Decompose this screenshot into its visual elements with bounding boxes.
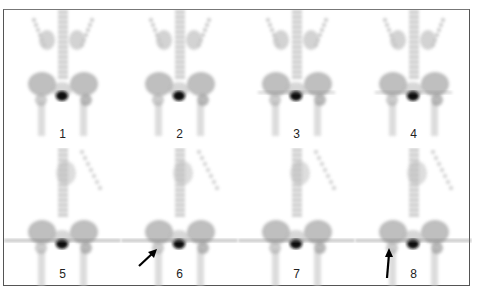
bone-scan-image (121, 148, 238, 286)
scan-panel-3: 3 (238, 10, 355, 148)
bone-scan-image (4, 148, 121, 286)
arrow-indicator (139, 249, 157, 266)
panel-number-label: 6 (121, 267, 238, 281)
bone-scan-image (238, 148, 355, 286)
panel-number-label: 2 (121, 127, 238, 141)
panel-number-label: 7 (238, 267, 355, 281)
panel-number-label: 1 (4, 127, 121, 141)
panel-number-label: 8 (355, 267, 472, 281)
scan-panel-8: 8 (355, 148, 472, 286)
scan-panel-6: 6 (121, 148, 238, 286)
scan-panel-2: 2 (121, 10, 238, 148)
panel-number-label: 5 (4, 267, 121, 281)
bone-scan-image (355, 148, 472, 286)
scan-panel-5: 5 (4, 148, 121, 286)
scan-panel-7: 7 (238, 148, 355, 286)
panel-number-label: 3 (238, 127, 355, 141)
scan-panel-1: 1 (4, 10, 121, 148)
panel-number-label: 4 (355, 127, 472, 141)
scan-panel-4: 4 (355, 10, 472, 148)
